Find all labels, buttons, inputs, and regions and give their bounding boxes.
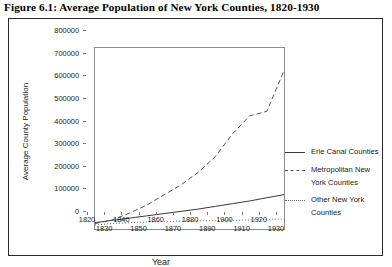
- y-tick-label: 100000: [54, 184, 79, 193]
- x-tick-mark: [207, 212, 208, 215]
- legend-key-dashed: [285, 170, 305, 171]
- legend-label-cont: York Counties: [311, 177, 358, 188]
- y-tick-mark: [83, 211, 86, 212]
- y-tick-label: 500000: [54, 93, 79, 102]
- legend-key-dotted: [285, 200, 305, 201]
- y-tick-label: 300000: [54, 139, 79, 148]
- y-tick-label: 600000: [54, 71, 79, 80]
- y-tick-label: 800000: [54, 26, 79, 35]
- x-tick-label: 1850: [130, 224, 146, 233]
- legend-label: Other New York: [311, 194, 364, 205]
- x-tick-label: 1890: [199, 224, 215, 233]
- x-tick-label: 1910: [233, 224, 249, 233]
- x-tick-label: 1900: [216, 215, 232, 224]
- y-tick-mark: [83, 166, 86, 167]
- x-tick-mark: [173, 212, 174, 215]
- x-tick-label: 1930: [268, 224, 284, 233]
- y-axis-label: Average County Population: [21, 72, 30, 192]
- y-tick-label: 400000: [54, 116, 79, 125]
- x-tick-mark: [276, 212, 277, 215]
- chart-lines: [95, 48, 284, 229]
- y-tick-mark: [83, 121, 86, 122]
- y-tick-mark: [83, 30, 86, 31]
- x-tick-label: 1860: [147, 215, 163, 224]
- x-tick-label: 1880: [182, 215, 198, 224]
- x-tick-mark: [139, 212, 140, 215]
- figure-border: Average County Population 01000002000003…: [8, 18, 383, 256]
- legend-key-solid: [285, 152, 305, 153]
- x-tick-label: 1840: [113, 215, 129, 224]
- series-line: [95, 71, 284, 224]
- x-tick-label: 1920: [251, 215, 267, 224]
- legend-label: Erie Canal Counties: [311, 146, 379, 157]
- y-tick-mark: [83, 188, 86, 189]
- y-tick-label: 700000: [54, 48, 79, 57]
- x-tick-label: 1830: [96, 224, 112, 233]
- y-tick-mark: [83, 98, 86, 99]
- legend-label-cont: Counties: [311, 207, 341, 218]
- x-axis-label: Year: [152, 257, 170, 267]
- x-tick-label: 1820: [79, 215, 95, 224]
- x-tick-mark: [242, 212, 243, 215]
- x-tick-label: 1870: [165, 224, 181, 233]
- figure-title: Figure 6.1: Average Population of New Yo…: [4, 1, 388, 13]
- legend-label: Metropolitan New: [311, 164, 370, 175]
- y-tick-label: 200000: [54, 161, 79, 170]
- plot-area: [94, 47, 285, 230]
- x-tick-mark: [104, 212, 105, 215]
- y-tick-mark: [83, 143, 86, 144]
- y-tick-mark: [83, 53, 86, 54]
- y-tick-mark: [83, 75, 86, 76]
